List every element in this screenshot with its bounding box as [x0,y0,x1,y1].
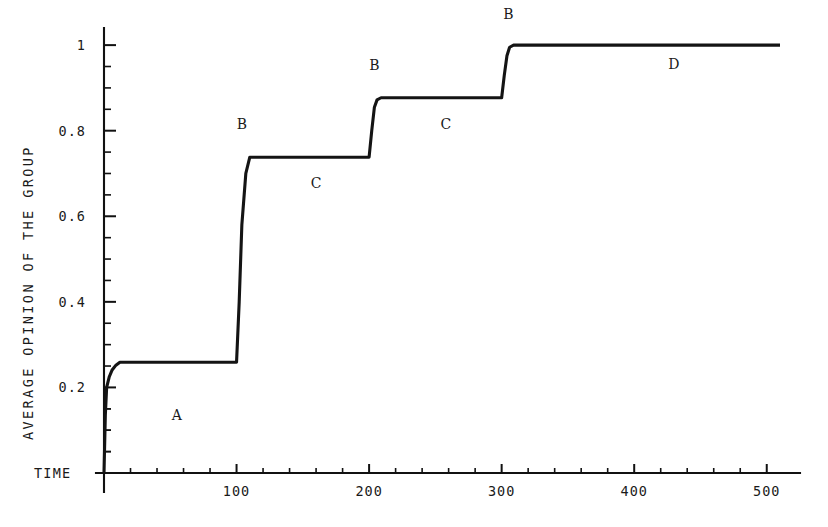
y-tick-label: 0.2 [59,379,86,395]
phase-label-b: B [369,57,379,73]
step-chart: 0.20.40.60.81 100200300400500 TIME AVERA… [0,0,828,527]
x-tick-label: 500 [753,483,780,499]
phase-annotations: ABCBCBD [171,6,680,423]
x-axis-tick-labels: 100200300400500 [223,483,781,499]
phase-label-c: C [311,175,322,191]
y-tick-label: 0.8 [59,123,86,139]
x-tick-label: 100 [223,483,250,499]
x-tick-label: 200 [355,483,382,499]
opinion-step-curve [104,45,780,473]
y-axis-tick-labels: 0.20.40.60.81 [59,37,86,395]
phase-label-b: B [237,116,247,132]
phase-label-d: D [668,56,679,72]
x-tick-label: 300 [488,483,515,499]
figure-container: 0.20.40.60.81 100200300400500 TIME AVERA… [0,0,828,527]
y-tick-label: 1 [77,37,86,53]
phase-label-c: C [441,116,452,132]
phase-label-b: B [503,6,513,22]
y-axis-label: AVERAGE OPINION OF THE GROUP [20,145,36,440]
x-tick-label: 400 [621,483,648,499]
x-axis-label: TIME [34,465,71,481]
phase-label-a: A [171,407,183,423]
y-tick-label: 0.4 [59,294,86,310]
y-tick-label: 0.6 [59,208,86,224]
